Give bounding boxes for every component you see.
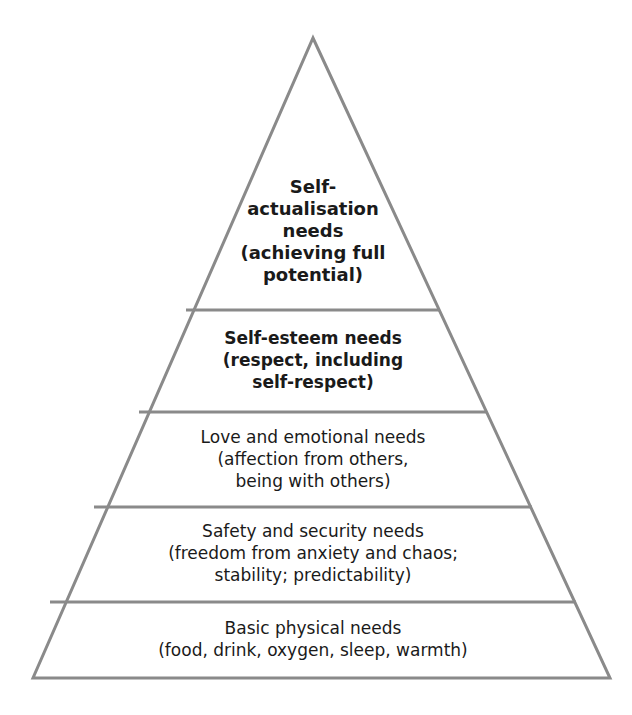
tier-line: Self-	[240, 176, 385, 198]
tier-title: Self-esteem needs	[223, 327, 403, 349]
tier-basic-physical: Basic physical needs (food, drink, oxyge…	[158, 617, 468, 661]
tier-line: (respect, including	[223, 349, 403, 371]
tier-title: Safety and security needs	[168, 520, 458, 542]
tier-line: (affection from others,	[201, 448, 426, 470]
tier-self-actualisation: Self- actualisation needs (achieving ful…	[240, 176, 385, 286]
tier-line: stability; predictability)	[168, 564, 458, 586]
tier-line: actualisation	[240, 198, 385, 220]
tier-line: self-respect)	[223, 371, 403, 393]
tier-line: being with others)	[201, 470, 426, 492]
tier-line: potential)	[240, 264, 385, 286]
tier-love-emotional: Love and emotional needs (affection from…	[201, 426, 426, 492]
tier-line: needs	[240, 220, 385, 242]
tier-safety-security: Safety and security needs (freedom from …	[168, 520, 458, 586]
tier-title: Love and emotional needs	[201, 426, 426, 448]
tier-line: (food, drink, oxygen, sleep, warmth)	[158, 639, 468, 661]
tier-line: (freedom from anxiety and chaos;	[168, 542, 458, 564]
tier-self-esteem: Self-esteem needs (respect, including se…	[223, 327, 403, 393]
tier-line: (achieving full	[240, 242, 385, 264]
tier-title: Basic physical needs	[158, 617, 468, 639]
